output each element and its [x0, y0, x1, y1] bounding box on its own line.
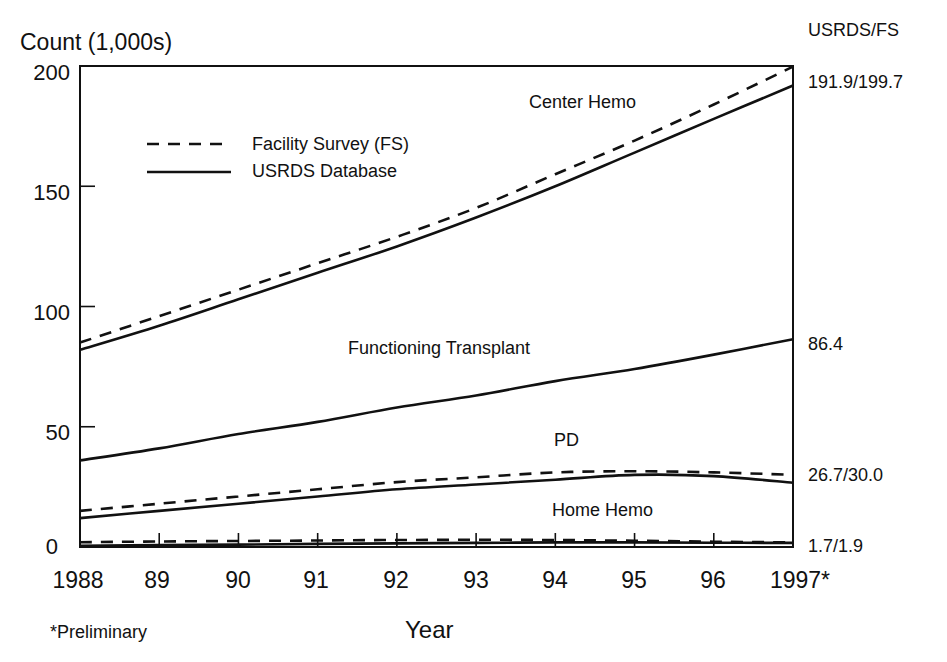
series-annotations: Center Hemo Functioning Transplant PD Ho…	[348, 92, 653, 520]
series-line-center-hemo-usrds	[80, 86, 793, 350]
y-tick-50: 50	[46, 420, 70, 445]
x-tick-96: 96	[700, 567, 726, 593]
x-tick-91: 91	[303, 567, 329, 593]
annotation-pd: PD	[554, 430, 579, 450]
x-tick-92: 92	[383, 567, 409, 593]
end-label-pd: 26.7/30.0	[808, 465, 883, 485]
series-line-home-hemo-usrds	[80, 542, 793, 545]
y-tick-100: 100	[33, 300, 70, 325]
x-tick-93: 93	[463, 567, 489, 593]
legend-label-fs: Facility Survey (FS)	[252, 134, 409, 154]
x-tick-labels: 1988 89 90 91 92 93 94 95 96 1997*	[52, 567, 830, 593]
y-tick-labels: 0 50 100 150 200	[33, 60, 70, 559]
annotation-home-hemo: Home Hemo	[552, 500, 653, 520]
end-labels: 191.9/199.7 86.4 26.7/30.0 1.7/1.9	[808, 72, 903, 556]
x-tick-1997: 1997*	[770, 567, 830, 593]
series-line-pd-fs	[80, 471, 793, 511]
x-tick-89: 89	[144, 567, 170, 593]
end-label-center-hemo: 191.9/199.7	[808, 72, 903, 92]
legend-label-usrds: USRDS Database	[252, 161, 397, 181]
series-lines	[80, 67, 793, 546]
series-line-center-hemo-fs	[80, 67, 793, 343]
x-tick-95: 95	[621, 567, 647, 593]
annotation-center-hemo: Center Hemo	[529, 92, 636, 112]
x-axis-label: Year	[405, 616, 454, 643]
line-chart: Count (1,000s) USRDS/FS Year *Preliminar…	[0, 0, 947, 662]
y-tick-200: 200	[33, 60, 70, 85]
end-label-transplant: 86.4	[808, 334, 843, 354]
y-tick-150: 150	[33, 180, 70, 205]
y-tick-0: 0	[46, 534, 58, 559]
axis-ticks	[80, 186, 714, 547]
annotation-functioning-transplant: Functioning Transplant	[348, 338, 530, 358]
footnote: *Preliminary	[50, 622, 147, 642]
x-tick-94: 94	[542, 567, 568, 593]
y-axis-label: Count (1,000s)	[20, 29, 172, 55]
legend: Facility Survey (FS) USRDS Database	[147, 134, 409, 181]
x-tick-1988: 1988	[52, 567, 103, 593]
end-label-home-hemo: 1.7/1.9	[808, 536, 863, 556]
series-line-pd-usrds	[80, 475, 793, 519]
x-tick-90: 90	[225, 567, 251, 593]
right-header: USRDS/FS	[808, 20, 899, 40]
